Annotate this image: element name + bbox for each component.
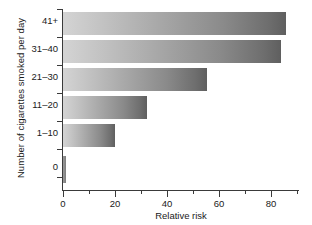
x-axis-title: Relative risk [63, 210, 299, 222]
x-axis-tick-0 [63, 191, 64, 197]
bar-41plus [63, 12, 286, 35]
bars-group [63, 10, 299, 190]
bar-chart: Number of cigarettes smoked per day 41+ … [0, 0, 312, 225]
x-axis-tick-80 [271, 191, 272, 197]
bar-21-30 [63, 68, 207, 91]
x-axis-tick-70 [245, 191, 246, 194]
x-tick-label-40: 40 [152, 198, 182, 209]
bar-31-40 [63, 40, 281, 63]
x-axis-tick-40 [167, 191, 168, 197]
x-tick-label-20: 20 [100, 198, 130, 209]
y-tick-label-0: 0 [18, 161, 58, 172]
x-axis-tick-20 [115, 191, 116, 197]
x-tick-label-60: 60 [204, 198, 234, 209]
y-tick-label-11-20: 11–20 [18, 99, 58, 110]
x-tick-label-80: 80 [256, 198, 286, 209]
y-tick-label-31-40: 31–40 [18, 43, 58, 54]
y-tick-label-21-30: 21–30 [18, 71, 58, 82]
y-tick-label-41plus: 41+ [18, 15, 58, 26]
bar-11-20 [63, 96, 147, 119]
x-tick-label-0: 0 [48, 198, 78, 209]
y-tick-label-1-10: 1–10 [18, 127, 58, 138]
x-axis-tick-30 [141, 191, 142, 194]
x-axis-tick-10 [89, 191, 90, 194]
x-axis-tick-end [297, 191, 298, 194]
bar-1-10 [63, 124, 115, 147]
y-axis-tick-labels: 41+ 31–40 21–30 11–20 1–10 0 [12, 0, 58, 225]
x-axis-line [62, 190, 299, 191]
bar-0 [63, 156, 66, 183]
x-axis-tick-50 [193, 191, 194, 194]
x-axis-tick-60 [219, 191, 220, 197]
